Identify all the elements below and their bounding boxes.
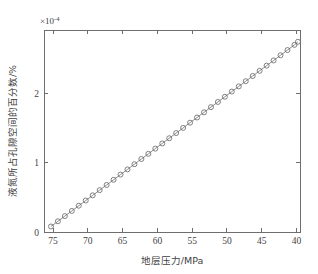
x-tick-label: 70 [83,236,93,246]
x-tick-label: 40 [292,236,302,246]
plot-area-background [44,30,300,232]
x-tick-label: 50 [222,236,232,246]
y-axis-exponent-power: -4 [54,15,60,22]
line-chart-canvas: 7570656055504540012 ×10-4 地层压力/MPa 液氮所占孔… [0,0,318,274]
x-tick-label: 60 [153,236,163,246]
x-tick-label: 45 [257,236,267,246]
y-tick-label: 1 [34,158,39,168]
x-tick-label: 75 [48,236,58,246]
x-axis-title: 地层压力/MPa [141,255,204,266]
y-tick-label: 2 [34,89,39,99]
y-axis-exponent-label: ×10-4 [40,15,60,27]
y-tick-label: 0 [34,228,39,238]
x-tick-label: 65 [118,236,128,246]
y-axis-exponent-base: ×10 [40,16,55,26]
x-tick-label: 55 [187,236,197,246]
y-axis-title: 液氮所占孔隙空间的百分数/% [7,65,18,197]
chart-figure: 7570656055504540012 ×10-4 地层压力/MPa 液氮所占孔… [0,0,318,274]
